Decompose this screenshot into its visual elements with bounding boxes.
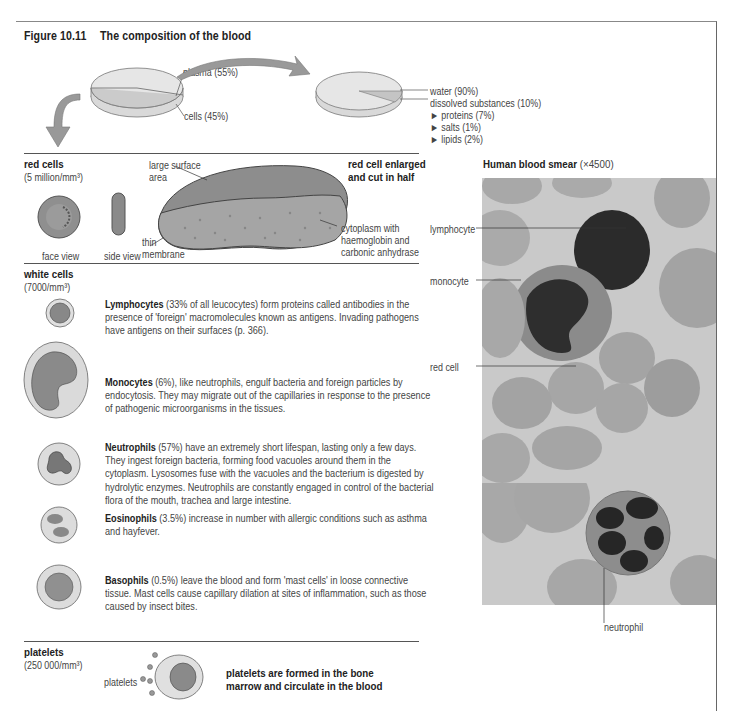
figure-title: Figure 10.11The composition of the blood [24,29,251,43]
white-cells-count: (7000/mm³) [24,281,70,293]
bullet-arrow-icon: ► [430,121,439,133]
water-label: water (90%) [430,85,478,97]
lymphocyte-drawing [44,297,78,331]
side-view-label: side view [104,250,141,262]
smear-heading: Human blood smear (×4500) [483,158,614,171]
figure-number: Figure 10.11 [24,29,86,43]
cells-label: cells (45%) [184,110,228,122]
basophil-description: Basophils (0.5%) leave the blood and for… [105,574,436,614]
bullet-arrow-icon: ► [430,133,439,145]
enlarged-heading: red cell enlargedand cut in half [348,158,426,184]
platelets-caption: platelets are formed in the bonemarrow a… [226,667,382,693]
monocyte-drawing [22,340,92,422]
platelets-heading: platelets [24,646,64,659]
section-divider [24,641,419,642]
red-cell-face-view [35,193,85,243]
dissolved-label: dissolved substances (10%) [430,97,541,109]
curved-arrow-down-icon [40,92,85,152]
platelets-label: platelets [104,676,137,688]
red-cells-heading: red cells [24,158,64,171]
eosinophil-drawing [39,505,81,547]
smear-label-neutrophil: neutrophil [604,621,643,633]
section-divider [24,153,419,154]
smear-label-monocyte: monocyte [430,275,469,287]
neutrophil-drawing [35,440,85,490]
lipids-item: ► lipids (2%) [430,133,483,145]
red-cell-side-view [110,191,130,241]
red-cells-count: (5 million/mm³) [24,171,83,183]
face-view-label: face view [42,250,79,262]
platelets-count: (250 000/mm³) [24,659,83,671]
salts-item: ► salts (1%) [430,121,481,133]
basophil-drawing [35,563,85,613]
section-divider [24,263,419,264]
smear-label-lymphocyte: lymphocyte [430,223,475,235]
lymphocyte-description: Lymphocytes (33% of all leucocytes) form… [105,298,436,338]
proteins-item: ► proteins (7%) [430,109,494,121]
smear-leader-lines [476,228,636,628]
megakaryocyte-drawing [135,647,210,702]
smear-label-red-cell: red cell [430,361,459,373]
membrane-label: thinmembrane [142,236,185,260]
curved-arrow-right-icon [175,52,315,87]
figure-caption: The composition of the blood [100,29,251,43]
bullet-arrow-icon: ► [430,109,439,121]
neutrophil-description: Neutrophils (57%) have an extremely shor… [105,441,436,507]
monocyte-description: Monocytes (6%), like neutrophils, engulf… [105,376,436,416]
plasma-pie-chart [315,67,405,127]
plasma-leader-lines [400,88,430,108]
white-cells-heading: white cells [24,268,73,281]
cytoplasm-label: cytoplasm withhaemoglobin andcarbonic an… [341,222,419,258]
surface-area-label: large surfacearea [149,159,201,183]
eosinophil-description: Eosinophils (3.5%) increase in number wi… [105,512,436,538]
